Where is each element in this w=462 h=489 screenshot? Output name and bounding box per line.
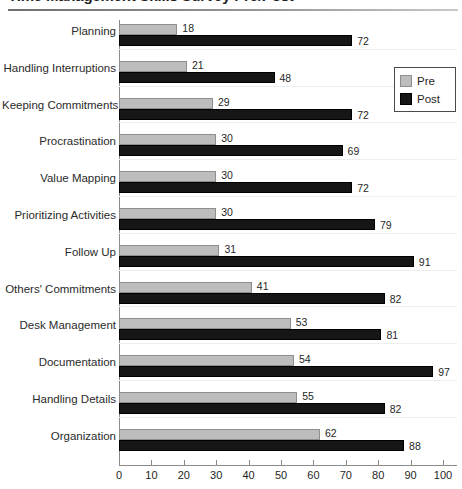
- row-separator: [119, 380, 457, 381]
- bar-post: [119, 145, 343, 156]
- bar-value-post: 79: [380, 220, 392, 231]
- row-separator: [119, 306, 457, 307]
- x-axis-tick: [281, 460, 282, 466]
- category-label-text: Handling Interruptions: [2, 62, 116, 74]
- bar-value-pre: 55: [302, 391, 314, 402]
- bar-value-post: 88: [409, 441, 421, 452]
- bar-pre: [119, 171, 216, 182]
- bar-pre: [119, 61, 187, 72]
- bar-value-pre: 30: [221, 207, 233, 218]
- bar-value-post: 91: [419, 257, 431, 268]
- category-label-text: Planning: [2, 25, 116, 37]
- chart-page: Time Management Skills Survey Pre/Post P…: [0, 0, 462, 489]
- row-separator: [119, 122, 457, 123]
- bar-value-post: 72: [357, 183, 369, 194]
- bar-post: [119, 366, 433, 377]
- category-label-text: Value Mapping: [2, 172, 116, 184]
- bar-post: [119, 219, 375, 230]
- bar-post: [119, 403, 385, 414]
- x-axis-tick: [378, 460, 379, 466]
- category-label-text: Organization: [2, 430, 116, 442]
- bar-value-post: 82: [390, 294, 402, 305]
- bar-pre: [119, 429, 320, 440]
- bar-pre: [119, 134, 216, 145]
- bar-post: [119, 182, 352, 193]
- x-axis-tick-label: 50: [275, 469, 287, 481]
- category-label-text: Procrastination: [2, 135, 116, 147]
- bar-pre: [119, 98, 213, 109]
- bar-value-pre: 54: [299, 354, 311, 365]
- bar-pre: [119, 392, 297, 403]
- category-label-text: Documentation: [2, 356, 116, 368]
- row-separator: [119, 159, 457, 160]
- bar-pre: [119, 208, 216, 219]
- bar-value-post: 48: [280, 73, 292, 84]
- x-axis-tick: [411, 460, 412, 466]
- x-axis-tick-label: 20: [178, 469, 190, 481]
- category-label-text: Keeping Commitments: [2, 99, 116, 111]
- bar-post: [119, 35, 352, 46]
- bar-value-post: 82: [390, 404, 402, 415]
- row-separator: [119, 196, 457, 197]
- row-separator: [119, 343, 457, 344]
- bar-value-pre: 53: [296, 317, 308, 328]
- bar-value-pre: 18: [182, 23, 194, 34]
- row-separator: [119, 233, 457, 234]
- bar-value-post: 72: [357, 36, 369, 47]
- x-axis-tick: [249, 460, 250, 466]
- x-axis-tick: [216, 460, 217, 466]
- x-axis-tick: [346, 460, 347, 466]
- chart-legend: Pre Post: [394, 67, 456, 112]
- legend-label-post: Post: [417, 93, 440, 105]
- bar-value-pre: 29: [218, 97, 230, 108]
- bar-value-post: 72: [357, 110, 369, 121]
- row-separator: [119, 417, 457, 418]
- bar-post: [119, 72, 275, 83]
- bar-value-pre: 30: [221, 170, 233, 181]
- x-axis-tick: [184, 460, 185, 466]
- bar-value-post: 97: [438, 367, 450, 378]
- category-label-text: Others' Commitments: [2, 283, 116, 295]
- x-axis-tick-label: 30: [210, 469, 222, 481]
- bar-value-pre: 31: [224, 244, 236, 255]
- category-label-text: Handling Details: [2, 393, 116, 405]
- row-separator: [119, 49, 457, 50]
- x-axis-tick-label: 70: [340, 469, 352, 481]
- x-axis-tick: [313, 460, 314, 466]
- bar-pre: [119, 318, 291, 329]
- category-label-text: Follow Up: [2, 246, 116, 258]
- x-axis-tick-label: 60: [307, 469, 319, 481]
- bar-post: [119, 256, 414, 267]
- x-axis-tick-label: 90: [404, 469, 416, 481]
- bar-post: [119, 329, 381, 340]
- bar-value-pre: 30: [221, 133, 233, 144]
- bar-post: [119, 109, 352, 120]
- bar-value-post: 69: [348, 146, 360, 157]
- legend-swatch-pre-icon: [400, 75, 412, 87]
- row-separator: [119, 270, 457, 271]
- x-axis-tick-label: 10: [145, 469, 157, 481]
- x-axis-tick: [119, 460, 120, 466]
- legend-item-post: Post: [400, 90, 455, 108]
- x-axis-tick: [443, 460, 444, 466]
- legend-label-pre: Pre: [417, 75, 435, 87]
- bar-value-post: 81: [386, 330, 398, 341]
- bar-post: [119, 293, 385, 304]
- bar-value-pre: 21: [192, 60, 204, 71]
- legend-swatch-post-icon: [400, 93, 412, 105]
- bar-post: [119, 440, 404, 451]
- bar-value-pre: 62: [325, 428, 337, 439]
- x-axis-tick-label: 80: [372, 469, 384, 481]
- bar-pre: [119, 24, 177, 35]
- bar-pre: [119, 355, 294, 366]
- category-label-text: Prioritizing Activities: [2, 209, 116, 221]
- legend-item-pre: Pre: [400, 72, 455, 90]
- x-axis-tick: [151, 460, 152, 466]
- bar-value-pre: 41: [257, 281, 269, 292]
- category-label-text: Desk Management: [2, 319, 116, 331]
- x-axis-line: [119, 465, 457, 466]
- x-axis-tick-label: 0: [116, 469, 122, 481]
- plot-area: Planning1872Handling Interruptions2148Ke…: [0, 0, 462, 489]
- x-axis-tick-label: 40: [242, 469, 254, 481]
- bar-pre: [119, 245, 219, 256]
